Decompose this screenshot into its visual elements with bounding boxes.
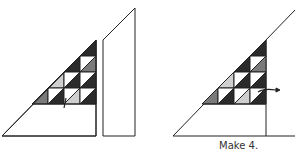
diagram-canvas (0, 0, 295, 161)
left-figure (2, 40, 96, 136)
caption-make-4: Make 4. (219, 140, 258, 151)
right-figure (173, 10, 295, 136)
side-strip (103, 8, 135, 136)
